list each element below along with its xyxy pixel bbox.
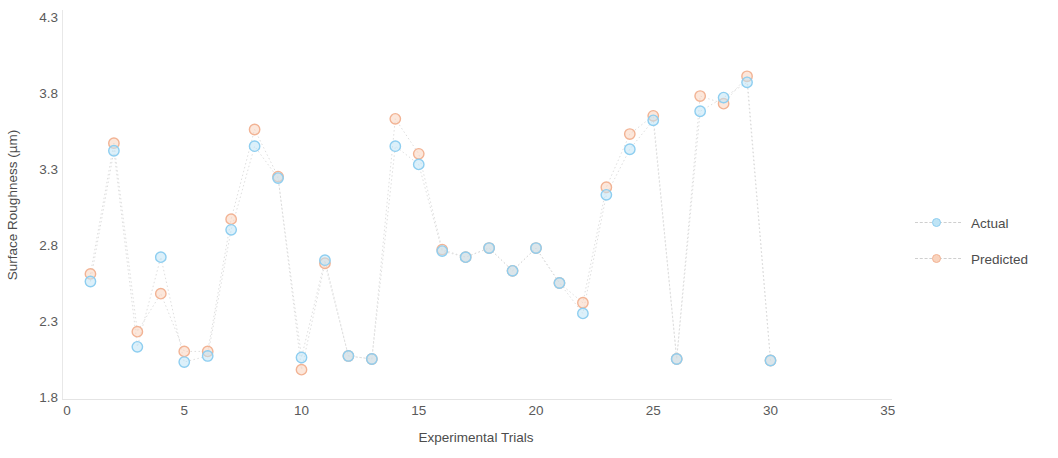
x-axis-tick-label: 5	[164, 403, 204, 418]
x-axis-tick-label: 0	[47, 403, 87, 418]
data-point[interactable]	[695, 106, 705, 116]
data-point[interactable]	[414, 149, 424, 159]
legend-dot-predicted	[932, 254, 941, 263]
data-point[interactable]	[742, 77, 752, 87]
data-point[interactable]	[625, 144, 635, 154]
data-point[interactable]	[109, 146, 119, 156]
x-axis-tick-label: 30	[751, 403, 791, 418]
legend-item-predicted[interactable]: Predicted	[915, 241, 1055, 277]
data-point[interactable]	[437, 246, 447, 256]
legend-label-actual: Actual	[961, 216, 1009, 231]
series-line-actual	[90, 82, 770, 362]
series-markers-predicted	[85, 71, 775, 375]
x-axis-tick-labels: 05101520253035	[0, 403, 1058, 425]
x-axis-tick-label: 20	[516, 403, 556, 418]
data-point[interactable]	[695, 91, 705, 101]
series-markers-actual	[85, 77, 775, 367]
data-point[interactable]	[226, 225, 236, 235]
legend-marker-predicted	[915, 252, 961, 266]
data-point[interactable]	[648, 115, 658, 125]
data-point[interactable]	[578, 298, 588, 308]
x-axis-tick-label: 25	[633, 403, 673, 418]
data-point[interactable]	[273, 173, 283, 183]
plot-svg	[0, 0, 1058, 458]
data-point[interactable]	[578, 308, 588, 318]
data-point[interactable]	[249, 124, 259, 134]
data-point[interactable]	[625, 129, 635, 139]
x-axis-tick-label: 15	[399, 403, 439, 418]
x-axis-tick-label: 10	[282, 403, 322, 418]
legend-label-predicted: Predicted	[961, 252, 1028, 267]
data-point[interactable]	[156, 252, 166, 262]
data-point[interactable]	[507, 266, 517, 276]
data-point[interactable]	[390, 141, 400, 151]
data-point[interactable]	[484, 243, 494, 253]
data-point[interactable]	[531, 243, 541, 253]
data-point[interactable]	[320, 255, 330, 265]
data-point[interactable]	[203, 351, 213, 361]
legend-item-actual[interactable]: Actual	[915, 205, 1055, 241]
x-axis-tick-label: 35	[868, 403, 908, 418]
data-point[interactable]	[296, 352, 306, 362]
legend-dot-actual	[932, 218, 941, 227]
data-point[interactable]	[390, 114, 400, 124]
data-point[interactable]	[414, 159, 424, 169]
data-point[interactable]	[601, 190, 611, 200]
chart-legend: Actual Predicted	[915, 205, 1055, 277]
plot-area	[62, 8, 890, 400]
data-point[interactable]	[460, 252, 470, 262]
data-point[interactable]	[85, 276, 95, 286]
data-point[interactable]	[179, 346, 189, 356]
data-point[interactable]	[249, 141, 259, 151]
data-point[interactable]	[718, 92, 728, 102]
data-point[interactable]	[156, 288, 166, 298]
data-point[interactable]	[765, 355, 775, 365]
data-point[interactable]	[132, 326, 142, 336]
data-point[interactable]	[367, 354, 377, 364]
series-line-predicted	[90, 76, 770, 369]
data-point[interactable]	[226, 214, 236, 224]
data-point[interactable]	[132, 342, 142, 352]
chart-container: Surface Roughness (µm) 1.82.32.83.33.84.…	[0, 0, 1058, 458]
legend-marker-actual	[915, 216, 961, 230]
data-point[interactable]	[672, 354, 682, 364]
data-point[interactable]	[179, 357, 189, 367]
data-point[interactable]	[296, 364, 306, 374]
data-point[interactable]	[343, 351, 353, 361]
x-axis-title: Experimental Trials	[62, 430, 890, 445]
data-point[interactable]	[554, 278, 564, 288]
